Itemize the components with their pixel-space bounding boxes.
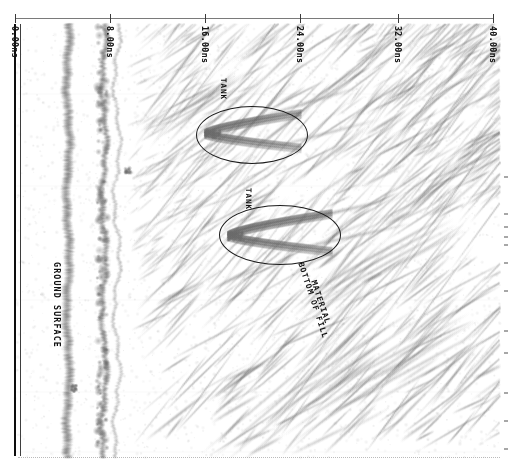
direct-wave-rail-secondary (20, 24, 21, 456)
time-axis-tick-label: 16.00ns (200, 26, 210, 63)
radargram-figure: 0.00ns8.00ns16.00ns24.00ns32.00ns40.00ns… (0, 0, 514, 468)
time-axis-tick-label: 8.00ns (105, 26, 115, 58)
time-axis-tick (205, 14, 206, 23)
margin-mark (504, 262, 508, 264)
margin-mark (504, 420, 508, 422)
margin-mark (504, 244, 508, 246)
time-axis-tick (15, 14, 16, 23)
margin-mark (504, 330, 508, 332)
margin-mark (504, 448, 508, 450)
tank-upper-ellipse (196, 106, 308, 164)
margin-mark (504, 352, 508, 354)
margin-mark (504, 213, 508, 215)
time-axis-tick (110, 14, 111, 23)
margin-mark (504, 236, 508, 238)
figure-baseline (18, 457, 500, 458)
margin-mark (504, 392, 508, 394)
margin-mark (504, 176, 508, 178)
time-axis-tick-label: 40.00ns (488, 26, 498, 63)
direct-wave-rail (14, 24, 16, 456)
time-axis-tick-label: 32.00ns (393, 26, 403, 63)
margin-mark (504, 290, 508, 292)
time-axis-tick (493, 14, 494, 23)
label-tank-lower: TANK (244, 188, 253, 210)
time-axis-tick-label: 0.00ns (10, 26, 20, 58)
time-axis-tick (398, 14, 399, 23)
label-tank-upper: TANK (219, 78, 228, 100)
tank-lower-ellipse (219, 205, 341, 265)
margin-mark (504, 226, 508, 228)
label-ground-surface: GROUND SURFACE (52, 262, 62, 348)
time-axis-line (15, 18, 494, 19)
time-axis-tick-label: 24.00ns (295, 26, 305, 63)
time-axis-tick (300, 14, 301, 23)
